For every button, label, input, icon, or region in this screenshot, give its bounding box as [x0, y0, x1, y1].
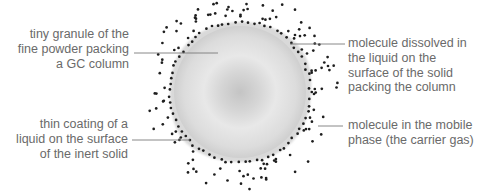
label-mobile-phase-molecule: molecule in the mobile phase (the carrie… [348, 118, 474, 148]
molecule-dot [294, 8, 297, 11]
molecule-dot [304, 62, 307, 65]
molecule-dot [171, 133, 174, 136]
molecule-dot [308, 105, 311, 108]
label-line: molecule in the mobile [348, 118, 474, 133]
molecule-dot [294, 34, 297, 37]
molecule-dot [308, 98, 311, 101]
molecule-dot [230, 161, 233, 164]
molecule-dot [310, 69, 313, 72]
molecule-dot [256, 159, 259, 162]
molecule-dot [241, 20, 244, 23]
label-line: of the inert solid [16, 147, 128, 162]
molecule-dot [311, 140, 314, 143]
molecule-dot [280, 32, 283, 35]
granule [170, 22, 311, 162]
molecule-dot [292, 46, 295, 49]
molecule-dot [227, 23, 230, 26]
molecule-dot [260, 176, 263, 179]
molecule-dot [263, 25, 266, 28]
molecule-dot [248, 188, 251, 191]
molecule-dot [192, 168, 195, 171]
molecule-dot [194, 16, 197, 19]
label-line: a GC column [18, 57, 129, 72]
molecule-dot [170, 77, 173, 80]
molecule-dot [187, 44, 190, 47]
label-line: phase (the carrier gas) [348, 133, 474, 148]
molecule-dot [169, 83, 172, 86]
molecule-dot [221, 23, 224, 26]
molecule-dot [271, 9, 274, 12]
gc-granule-diagram: tiny granule of the fine powder packing … [0, 0, 482, 195]
molecule-dot [194, 14, 197, 17]
molecule-dot [224, 161, 227, 164]
molecule-dot [209, 13, 212, 16]
molecule-dot [287, 30, 290, 33]
molecule-dot [155, 107, 158, 110]
molecule-dot [283, 147, 286, 150]
molecule-dot [168, 95, 171, 98]
label-liquid-coating: thin coating of a liquid on the surface … [16, 117, 128, 161]
label-dissolved-molecule: molecule dissolved in the liquid on the … [348, 36, 467, 95]
molecule-dot [304, 68, 307, 71]
molecule-dot [298, 127, 301, 130]
molecule-dot [296, 132, 299, 135]
molecule-dot [264, 18, 267, 21]
molecule-dot [219, 167, 222, 170]
molecule-dot [213, 156, 216, 159]
molecule-dot [173, 49, 176, 52]
molecule-dot [246, 8, 249, 11]
molecule-dot [253, 22, 256, 25]
molecule-dot [246, 173, 249, 176]
molecule-dot [194, 36, 197, 39]
molecule-dot [197, 8, 200, 11]
molecule-dot [320, 66, 323, 69]
molecule-dot [261, 17, 264, 20]
molecule-dot [198, 147, 201, 150]
molecule-dot [252, 177, 255, 180]
molecule-dot [217, 24, 220, 27]
granule-core [174, 26, 306, 158]
molecule-dot [303, 34, 306, 37]
molecule-dot [220, 158, 223, 161]
molecule-dot [269, 26, 272, 29]
molecule-dot [272, 153, 275, 156]
molecule-dot [161, 123, 164, 126]
molecule-dot [335, 86, 338, 89]
molecule-dot [224, 14, 227, 17]
molecule-dot [276, 29, 279, 32]
molecule-dot [265, 177, 268, 180]
molecule-dot [248, 160, 251, 163]
molecule-dot [289, 154, 292, 157]
molecule-dot [172, 112, 175, 115]
molecule-dot [163, 30, 166, 33]
molecule-dot [167, 116, 170, 119]
molecule-dot [212, 3, 215, 6]
molecule-dot [234, 21, 237, 24]
molecule-dot [247, 21, 250, 24]
label-line: the liquid on the [348, 51, 467, 66]
molecule-dot [327, 65, 330, 68]
molecule-dot [192, 158, 195, 161]
molecule-dot [326, 56, 329, 59]
molecule-dot [269, 17, 272, 20]
molecule-dot [192, 150, 195, 153]
molecule-dot [161, 61, 164, 64]
molecule-dot [178, 55, 181, 58]
label-line: packing the column [348, 80, 467, 95]
molecule-dot [300, 21, 303, 24]
molecule-dot [313, 35, 316, 38]
molecule-dot [175, 30, 178, 33]
molecule-dot [214, 12, 217, 15]
molecule-dot [323, 61, 326, 64]
molecule-dot [320, 133, 323, 136]
molecule-dot [300, 55, 303, 58]
molecule-dot [242, 175, 245, 178]
label-granule: tiny granule of the fine powder packing … [18, 27, 129, 71]
molecule-dot [170, 107, 173, 110]
molecule-dot [298, 28, 301, 31]
molecule-dot [195, 170, 198, 173]
molecule-dot [175, 20, 178, 23]
molecule-dot [187, 37, 190, 40]
molecule-dot [205, 27, 208, 30]
molecule-dot [259, 167, 262, 170]
